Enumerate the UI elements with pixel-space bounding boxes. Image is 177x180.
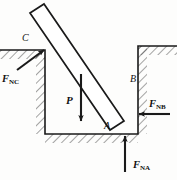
point-label-b: B	[130, 74, 136, 84]
force-label-weight: P	[66, 95, 73, 106]
force-label-fnc: FNC	[2, 74, 19, 86]
force-subscript-fnb: NB	[156, 103, 166, 111]
force-subscript-fnc: NC	[9, 78, 19, 86]
left-ditch-wall-hatching	[36, 50, 45, 134]
right-ground-hatching	[138, 46, 177, 55]
force-symbol-fna: F	[133, 159, 140, 170]
right-ditch-wall-hatching	[138, 46, 147, 134]
force-label-fna: FNA	[133, 160, 150, 172]
point-label-a: A	[104, 121, 110, 131]
force-label-fnb: FNB	[149, 99, 166, 111]
force-symbol-fnc: F	[2, 73, 9, 84]
free-body-diagram: C A B FNC FNB FNA P	[0, 0, 177, 180]
force-symbol-fnb: F	[149, 98, 156, 109]
diagram-canvas	[0, 0, 177, 180]
force-subscript-fna: NA	[140, 164, 150, 172]
point-label-c: C	[22, 33, 29, 43]
